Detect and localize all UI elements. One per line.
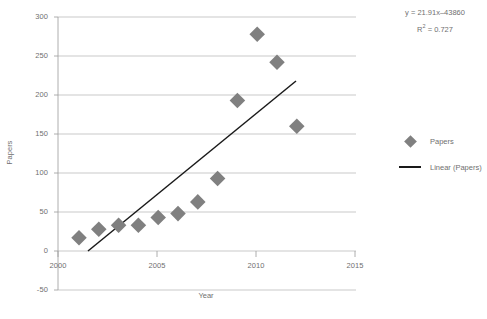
y-axis-title: Papers: [5, 131, 14, 175]
trendline-equation-label: y = 21.91x–43860: [385, 8, 485, 17]
r-squared-label: R2 = 0.727: [385, 23, 485, 34]
legend-label-linear-papers: Linear (Papers): [424, 163, 482, 172]
data-point: [190, 194, 206, 210]
data-point: [289, 118, 305, 134]
line-marker-icon: [396, 166, 424, 167]
data-point: [249, 26, 265, 42]
y-tick-label-250: 250: [14, 51, 48, 60]
y-tick-label-200: 200: [14, 90, 48, 99]
chart-legend: Papers Linear (Papers): [396, 128, 486, 180]
x-tick-label-2010: 2010: [236, 261, 276, 270]
y-tick-label-100: 100: [14, 168, 48, 177]
data-point: [170, 206, 186, 222]
y-tick-label-0: 0: [14, 246, 48, 255]
y-axis-ticks: [54, 17, 58, 290]
data-point: [269, 55, 285, 71]
legend-item-linear-papers[interactable]: Linear (Papers): [396, 154, 486, 180]
legend-item-papers[interactable]: Papers: [396, 128, 486, 154]
x-tick-label-2015: 2015: [335, 261, 375, 270]
y-tick-label-neg50: -50: [14, 285, 48, 294]
legend-label-papers: Papers: [424, 137, 454, 146]
y-tick-label-50: 50: [14, 207, 48, 216]
scatter-chart: 300 250 200 150 100 50 0 -50 2000 2005 2…: [0, 0, 487, 319]
r-squared-value: = 0.727: [426, 25, 453, 34]
data-point: [131, 218, 147, 234]
x-tick-label-2000: 2000: [38, 261, 78, 270]
x-axis-ticks: [58, 251, 355, 257]
data-point: [91, 221, 107, 237]
y-tick-label-150: 150: [14, 129, 48, 138]
x-tick-label-2005: 2005: [137, 261, 177, 270]
diamond-marker-icon: [396, 137, 424, 146]
data-points-papers: [71, 26, 304, 245]
x-axis-title: Year: [186, 291, 226, 300]
y-tick-label-300: 300: [14, 12, 48, 21]
data-point: [71, 230, 87, 246]
